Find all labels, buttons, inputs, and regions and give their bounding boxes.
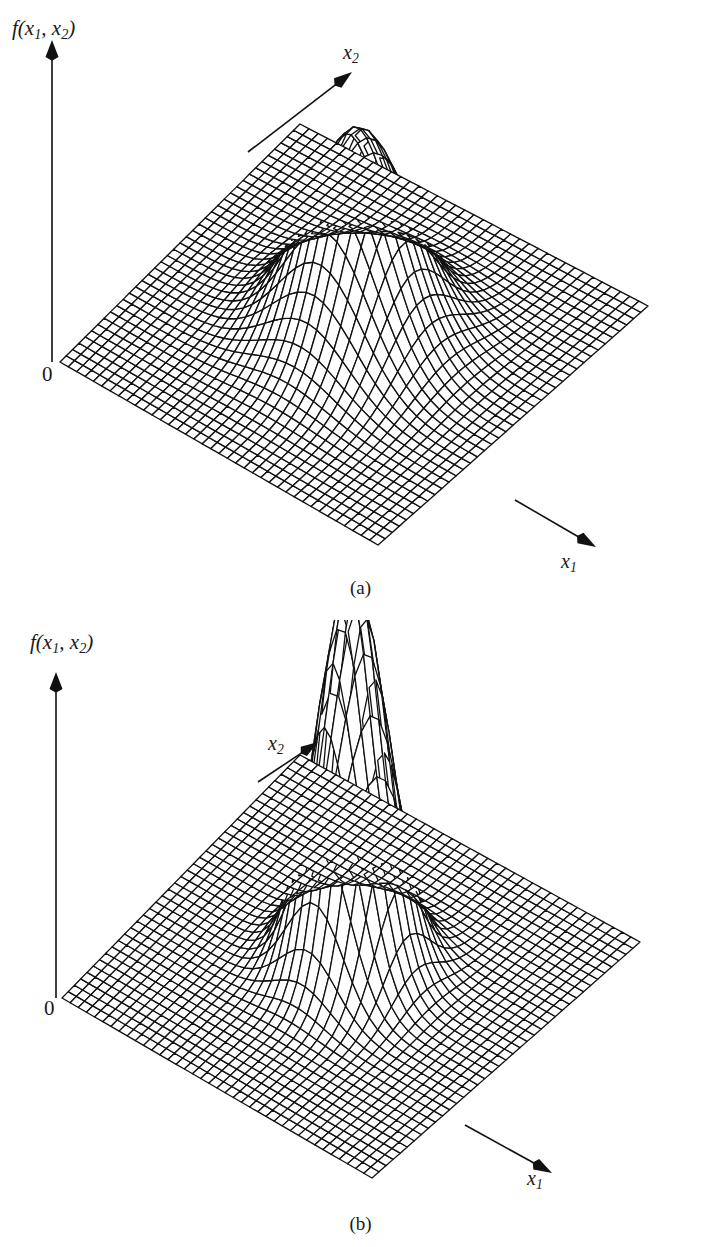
panel-caption-b: (b) bbox=[0, 1214, 721, 1233]
panel-caption-a: (a) bbox=[0, 578, 721, 597]
z-axis-label-a: f(x1, x2) bbox=[12, 18, 75, 41]
x2-axis-label-a: x2 bbox=[343, 42, 359, 65]
origin-label-a: 0 bbox=[42, 364, 53, 385]
x2-axis-label-b: x2 bbox=[268, 733, 284, 756]
x1-axis-label-b: x1 bbox=[527, 1168, 543, 1191]
surface-plot-panel-b: f(x1, x2) 0 x2 x1 (b) bbox=[0, 620, 721, 1247]
x1-axis-label-a: x1 bbox=[561, 551, 577, 574]
surface-plot-panel-a: f(x1, x2) 0 x2 x1 (a) bbox=[0, 0, 721, 620]
origin-label-b: 0 bbox=[44, 998, 55, 1019]
z-axis-label-b: f(x1, x2) bbox=[30, 632, 93, 655]
surface-plot-b-canvas bbox=[0, 620, 721, 1247]
surface-plot-a-canvas bbox=[0, 0, 721, 620]
